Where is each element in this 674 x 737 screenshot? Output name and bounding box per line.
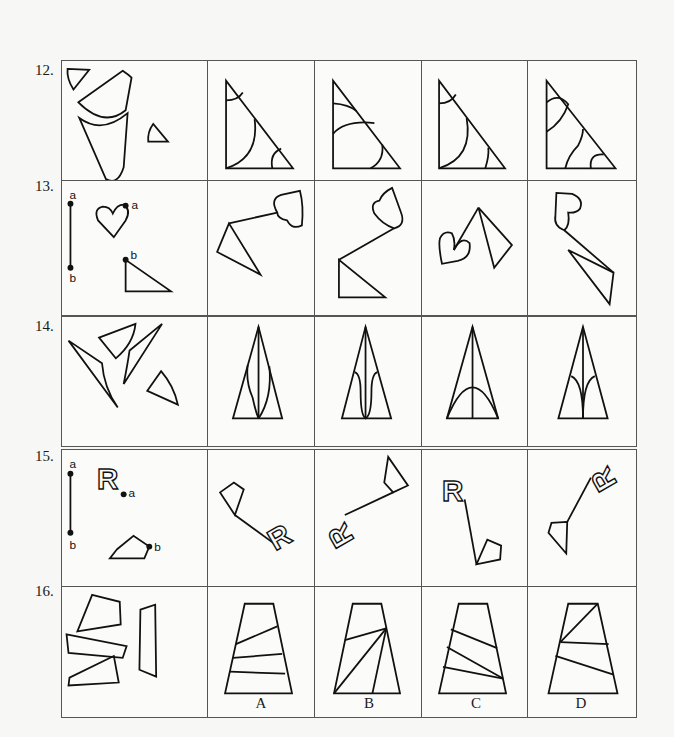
q14-option-d-figure [528, 317, 638, 446]
q15-c-r-glyph: R [442, 474, 463, 507]
question-number-14: 14. [35, 318, 54, 335]
q13-option-d-figure [528, 181, 638, 315]
question-12-row [61, 60, 637, 187]
q13-pieces-figure: a b a b [62, 181, 207, 315]
q15-seg-label-b: b [69, 538, 76, 552]
q16-label-d: D [571, 695, 591, 712]
q13-option-c[interactable] [422, 181, 528, 315]
q14-option-d[interactable] [528, 317, 638, 446]
question-number-12: 12. [35, 62, 54, 79]
q16-pieces-figure [62, 587, 207, 717]
q15-option-d[interactable]: R [528, 450, 638, 588]
question-16-row [61, 586, 637, 718]
q12-option-c-figure [422, 61, 527, 186]
q15-seg-label-a: a [69, 457, 76, 471]
q13-option-a[interactable] [208, 181, 315, 315]
q15-poly-label-b: b [154, 540, 161, 554]
q12-pieces-figure [62, 61, 207, 186]
q14-pieces-panel [62, 317, 208, 446]
q15-a-r-glyph: R [262, 517, 297, 556]
q16-label-c: C [466, 695, 486, 712]
q15-option-b[interactable]: R [315, 450, 422, 588]
q16-label-b: B [359, 695, 379, 712]
q12-option-a-figure [208, 61, 314, 186]
question-number-16: 16. [35, 583, 54, 600]
question-number-13: 13. [35, 178, 54, 195]
q13-heart-label-a: a [132, 198, 139, 212]
q16-label-a: A [251, 695, 271, 712]
q12-option-a[interactable] [208, 61, 315, 186]
q14-option-b-figure [315, 317, 421, 446]
q14-option-a-figure [208, 317, 314, 446]
q13-option-a-figure [208, 181, 314, 315]
q12-option-d-figure [528, 61, 638, 186]
q15-option-a[interactable]: R [208, 450, 315, 588]
q13-option-c-figure [422, 181, 527, 315]
q15-option-c-figure: R [422, 450, 527, 588]
question-14-row [61, 316, 637, 447]
question-13-row: a b a b [61, 180, 637, 316]
q15-d-r-glyph: R [584, 462, 623, 497]
q12-option-b-figure [315, 61, 421, 186]
q14-option-c-figure [422, 317, 527, 446]
q15-option-d-figure: R [528, 450, 638, 588]
q13-pieces-panel: a b a b [62, 181, 208, 315]
q13-seg-label-a: a [69, 188, 76, 202]
q14-pieces-figure [62, 317, 207, 446]
q13-option-d[interactable] [528, 181, 638, 315]
question-15-row: a b R a b R R R [61, 449, 637, 589]
q12-option-b[interactable] [315, 61, 422, 186]
q12-option-d[interactable] [528, 61, 638, 186]
q14-option-c[interactable] [422, 317, 528, 446]
q15-r-glyph: R [97, 462, 118, 495]
q15-option-a-figure: R [208, 450, 314, 588]
q16-pieces-panel [62, 587, 208, 717]
q13-option-b[interactable] [315, 181, 422, 315]
q12-option-c[interactable] [422, 61, 528, 186]
q15-r-label-a: a [129, 486, 136, 500]
q13-seg-label-b: b [69, 271, 76, 285]
q15-b-r-glyph: R [321, 518, 360, 553]
q13-option-b-figure [315, 181, 421, 315]
q14-option-a[interactable] [208, 317, 315, 446]
q15-option-c[interactable]: R [422, 450, 528, 588]
q13-tri-label-b: b [131, 248, 138, 262]
q12-pieces-panel [62, 61, 208, 186]
q15-pieces-figure: a b R a b [62, 450, 207, 588]
q15-option-b-figure: R [315, 450, 421, 588]
question-number-15: 15. [35, 448, 54, 465]
q14-option-b[interactable] [315, 317, 422, 446]
q15-pieces-panel: a b R a b [62, 450, 208, 588]
